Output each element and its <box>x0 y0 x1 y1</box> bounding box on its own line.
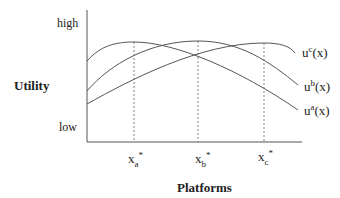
x-axis-title: Platforms <box>177 180 232 196</box>
optimum-label-a: xa* <box>128 150 143 169</box>
utility-diagram <box>0 0 340 198</box>
optimum-label-c: xc* <box>258 148 273 167</box>
optimum-label-b: xb* <box>195 150 211 169</box>
y-low-label: low <box>59 120 77 135</box>
curve-ua <box>87 42 298 110</box>
curve-ub <box>87 41 298 91</box>
y-axis-title: Utility <box>14 78 49 94</box>
curve-label-uc: uc(x) <box>302 44 328 61</box>
curve-label-ua: ua(x) <box>304 102 330 119</box>
curve-label-ub: ub(x) <box>304 78 330 95</box>
y-high-label: high <box>57 16 78 31</box>
